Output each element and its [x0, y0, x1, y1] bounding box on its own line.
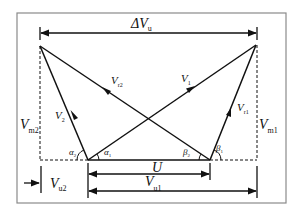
alpha2-sub: 2 [74, 153, 77, 158]
beta2-arc [199, 154, 201, 160]
beta2-sub: 2 [187, 153, 190, 158]
v1-vector [88, 45, 256, 160]
vu1-sub: u1 [154, 184, 162, 193]
svg-text:ΔVu: ΔVu [130, 16, 152, 33]
svg-text:Vr2: Vr2 [111, 74, 123, 88]
svg-text:Vm2: Vm2 [20, 117, 39, 135]
svg-text:β1: β1 [215, 143, 223, 154]
svg-text:V1: V1 [181, 72, 191, 86]
svg-text:α2: α2 [69, 147, 77, 158]
u-label: U [152, 160, 163, 175]
vr1-sub: r1 [244, 109, 249, 115]
v1-sub: 1 [188, 80, 191, 86]
alpha2-arc [77, 150, 84, 160]
vr2-arrowhead [102, 87, 111, 95]
v2-arrowhead [71, 110, 79, 120]
vr1-arrowhead [226, 108, 231, 117]
vm1-sub: m1 [268, 126, 278, 135]
svg-text:Vr1: Vr1 [237, 101, 249, 115]
svg-text:Vu2: Vu2 [50, 176, 67, 193]
delta-vu-sub: u [148, 24, 152, 33]
delta-vu-label: ΔV [130, 16, 149, 31]
v2-sub: 2 [62, 117, 65, 123]
svg-text:β2: β2 [182, 147, 190, 158]
velocity-triangle-diagram: ΔVu Vr2 V1 V2 Vr1 Vm2 Vm1 α2 α1 β2 β1 U … [0, 0, 304, 212]
alpha1-arc [97, 154, 99, 160]
beta1-sub: 1 [220, 149, 223, 154]
vr2-vector [40, 46, 210, 160]
vr2-sub: r2 [118, 82, 123, 88]
svg-text:V2: V2 [55, 109, 65, 123]
vu2-sub: u2 [59, 184, 67, 193]
svg-text:Vu1: Vu1 [145, 174, 162, 193]
svg-text:Vm1: Vm1 [259, 117, 278, 135]
vm2-sub: m2 [29, 126, 39, 135]
svg-text:α1: α1 [104, 147, 112, 158]
v2-vector [40, 46, 88, 160]
alpha1-sub: 1 [109, 153, 112, 158]
